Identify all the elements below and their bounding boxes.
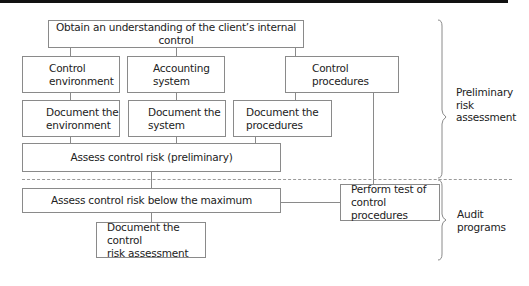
box-obtain-understanding: Obtain an understanding of the client’s … bbox=[48, 20, 304, 48]
box-text: system bbox=[153, 75, 210, 88]
box-text: Document the bbox=[46, 106, 119, 119]
box-assess-below-maximum: Assess control risk below the maximum bbox=[22, 188, 281, 213]
box-text: procedures bbox=[246, 119, 319, 132]
connector bbox=[176, 47, 177, 56]
box-document-environment: Document theenvironment bbox=[22, 100, 120, 137]
box-assess-preliminary: Assess control risk (preliminary) bbox=[22, 143, 281, 172]
brace-preliminary-icon bbox=[436, 18, 450, 180]
label-text: programs bbox=[457, 221, 506, 234]
box-text: Assess control risk (preliminary) bbox=[70, 151, 232, 164]
label-text: risk bbox=[456, 99, 516, 112]
box-text: Control bbox=[312, 62, 369, 75]
box-text: Obtain an understanding of the client’s … bbox=[49, 21, 303, 47]
box-text: control procedures bbox=[351, 196, 439, 222]
box-text: environment bbox=[46, 119, 119, 132]
box-control-procedures: Controlprocedures bbox=[285, 56, 399, 93]
connector bbox=[70, 136, 71, 143]
box-text: procedures bbox=[312, 75, 369, 88]
label-text: Audit bbox=[457, 208, 506, 221]
connector bbox=[176, 92, 177, 100]
box-text: risk assessment bbox=[107, 247, 205, 260]
box-text: Document the control bbox=[107, 221, 205, 247]
connector bbox=[295, 47, 296, 56]
connector bbox=[280, 202, 340, 203]
box-document-system: Document thesystem bbox=[128, 100, 226, 137]
box-text: Assess control risk below the maximum bbox=[51, 194, 252, 207]
box-text: Document the bbox=[148, 106, 221, 119]
connector bbox=[295, 92, 296, 100]
brace-audit-icon bbox=[436, 178, 450, 262]
phase-label-audit: Audit programs bbox=[457, 208, 506, 233]
box-document-risk-assessment: Document the controlrisk assessment bbox=[96, 222, 206, 258]
box-perform-test: Perform test ofcontrol procedures bbox=[340, 184, 440, 221]
connector bbox=[70, 47, 71, 56]
phase-label-preliminary: Preliminary risk assessment bbox=[456, 86, 516, 124]
connector bbox=[255, 136, 256, 143]
label-text: Preliminary bbox=[456, 86, 516, 99]
box-text: Accounting bbox=[153, 62, 210, 75]
box-control-environment: Controlenvironment bbox=[22, 56, 120, 93]
box-document-procedures: Document theprocedures bbox=[233, 100, 332, 137]
connector bbox=[176, 136, 177, 143]
connector bbox=[70, 92, 71, 100]
connector bbox=[373, 92, 374, 184]
box-text: Perform test of bbox=[351, 183, 439, 196]
label-text: assessment bbox=[456, 111, 516, 124]
top-border-bar bbox=[0, 0, 508, 3]
box-text: environment bbox=[49, 75, 114, 88]
box-text: Document the bbox=[246, 106, 319, 119]
box-text: Control bbox=[49, 62, 114, 75]
box-accounting-system: Accountingsystem bbox=[127, 56, 225, 93]
box-text: system bbox=[148, 119, 221, 132]
